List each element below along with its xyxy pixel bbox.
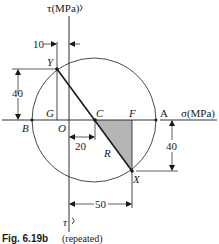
label-b: B: [22, 122, 29, 134]
label-c: C: [96, 107, 104, 119]
tau-top-rotation-icon: [80, 5, 82, 11]
label-f: F: [128, 107, 136, 119]
dim-10-label: 10: [33, 38, 45, 50]
tau-top-label: τ(MPa): [47, 2, 80, 15]
dim-40-x-label: 40: [166, 140, 178, 152]
label-g: G: [46, 107, 54, 119]
label-x: X: [132, 173, 141, 185]
dim-50-label: 50: [95, 198, 107, 210]
label-a: A: [160, 107, 168, 119]
figure-caption-note: (repeated): [62, 233, 103, 244]
sigma-label: σ(MPa): [181, 107, 215, 120]
point-b: [31, 119, 34, 122]
dim-40-y-label: 40: [12, 87, 24, 99]
mohr-circle-diagram: 10 40 20 40 50 τ(MPa) σ(MPa) τ Y G C F A…: [0, 0, 219, 244]
label-r: R: [103, 147, 111, 159]
label-o: O: [58, 122, 66, 134]
tau-bottom-rotation-icon: [72, 218, 74, 224]
tau-bottom-label: τ: [63, 216, 68, 228]
point-a: [155, 119, 158, 122]
point-y: [55, 67, 59, 71]
figure-caption-label: Fig. 6.19b: [2, 233, 48, 244]
label-y: Y: [47, 56, 55, 68]
dim-20-label: 20: [75, 140, 87, 152]
